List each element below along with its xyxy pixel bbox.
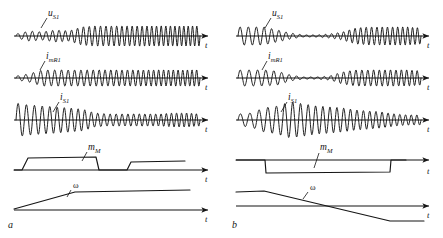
axis-label-t: t xyxy=(205,40,208,50)
panel-label-a: a xyxy=(8,219,13,230)
label-group: uS1timR1tiS1tmMtωtauS1timR1tiS1tmMtωtb xyxy=(8,8,430,230)
subscript: S1 xyxy=(277,13,284,20)
subscript: mR1 xyxy=(271,56,283,63)
plot-a-m-M xyxy=(14,152,208,170)
plot-b-omega xyxy=(236,191,429,221)
label-leader xyxy=(262,61,267,70)
subscript: M xyxy=(326,147,333,154)
plot-a-omega xyxy=(14,190,208,210)
plot-a-u-S1 xyxy=(14,18,208,46)
plot-b-u-S1 xyxy=(236,18,429,45)
axis-label-t: t xyxy=(205,82,208,92)
axis-label-t: t xyxy=(427,166,430,176)
subscript: S1 xyxy=(53,13,60,20)
subscript: S1 xyxy=(291,97,298,104)
axis-label-t: t xyxy=(427,40,430,50)
plot-a-i-S1 xyxy=(14,102,208,136)
panel-b xyxy=(236,18,429,221)
axis-label-t: t xyxy=(205,214,208,224)
figure-canvas: uS1timR1tiS1tmMtωtauS1timR1tiS1tmMtωtb xyxy=(0,0,443,238)
axis-label-t: t xyxy=(427,82,430,92)
axis-label-t: t xyxy=(205,174,208,184)
label-leader xyxy=(41,18,47,28)
panel-label-b: b xyxy=(232,219,237,230)
axis-label-t: t xyxy=(427,210,430,220)
subscript: M xyxy=(94,147,101,154)
waveform-figure: uS1timR1tiS1tmMtωtauS1timR1tiS1tmMtωtb xyxy=(0,0,443,238)
signal-label-i-S1: iS1 xyxy=(288,92,297,104)
label-leader xyxy=(82,152,87,161)
subscript: mR1 xyxy=(49,56,61,63)
trace-m-M xyxy=(14,157,185,170)
signal-label-omega: ω xyxy=(73,180,79,190)
signal-label-i-mR1: imR1 xyxy=(46,51,61,63)
signal-label-omega: ω xyxy=(310,182,316,192)
trace-omega xyxy=(14,190,190,209)
axis-label-t: t xyxy=(427,124,430,134)
plot-a-i-mR1 xyxy=(14,61,208,86)
signal-label-m-M: mM xyxy=(88,142,101,154)
subscript: S1 xyxy=(63,97,70,104)
label-leader xyxy=(40,61,45,70)
signal-label-u-S1: uS1 xyxy=(272,8,283,20)
label-leader xyxy=(265,18,271,28)
signal-label-i-S1: iS1 xyxy=(60,92,69,104)
signal-label-u-S1: uS1 xyxy=(48,8,59,20)
axis-label-t: t xyxy=(205,124,208,134)
signal-label-m-M: mM xyxy=(320,142,333,154)
plot-b-m-M xyxy=(236,153,429,173)
trace-m-M xyxy=(236,160,406,173)
signal-label-i-mR1: imR1 xyxy=(268,51,283,63)
plot-b-i-mR1 xyxy=(236,61,429,86)
panel-group xyxy=(14,18,429,221)
panel-a xyxy=(14,18,208,210)
label-leader xyxy=(303,192,308,199)
plot-b-i-S1 xyxy=(236,102,429,137)
